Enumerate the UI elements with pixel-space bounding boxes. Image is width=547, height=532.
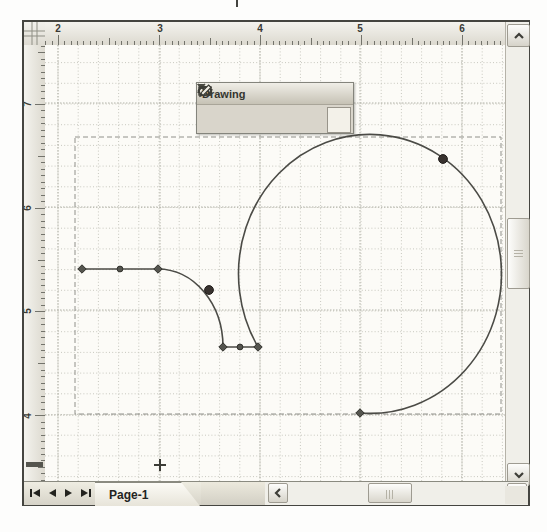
- rectangle-tool-button[interactable]: [199, 107, 224, 133]
- h-ruler-tick: [109, 38, 110, 45]
- arc-tool-button[interactable]: [276, 107, 301, 133]
- arc-control-point[interactable]: [439, 155, 448, 164]
- pencil-tool-button[interactable]: [327, 107, 352, 133]
- thumb-grip-icon: [514, 250, 523, 258]
- ruler-corner-cross-icon: [24, 22, 45, 45]
- h-ruler-tick: [58, 35, 59, 45]
- bottom-bar: Page-1: [24, 481, 528, 505]
- v-ruler-tick: [38, 467, 45, 468]
- v-ruler-tick: [38, 363, 45, 364]
- v-ruler-tick: [35, 415, 45, 416]
- v-ruler-label: 7: [24, 101, 33, 107]
- previous-page-icon: [47, 488, 57, 498]
- v-ruler-label: 6: [24, 205, 33, 211]
- drawing-canvas[interactable]: Drawing: [45, 45, 505, 481]
- vertical-scrollbar[interactable]: [505, 22, 529, 486]
- pencil-icon: [197, 83, 213, 99]
- vertex-handle[interactable]: [254, 343, 262, 351]
- selection-bounding-box: [75, 137, 501, 414]
- v-ruler-tick: [35, 104, 45, 105]
- drawing-toolbar-titlebar[interactable]: Drawing: [197, 83, 353, 105]
- vertex-handle[interactable]: [154, 265, 162, 273]
- horizontal-scrollbar-thumb[interactable]: [368, 483, 412, 503]
- crosshair-cursor: [154, 459, 166, 471]
- v-ruler-label: 4: [24, 413, 33, 419]
- h-ruler-label: 2: [55, 23, 61, 34]
- segment-midpoint-handle[interactable]: [117, 266, 123, 272]
- horizontal-ruler: 23456: [45, 22, 505, 46]
- next-page-button[interactable]: [61, 484, 77, 502]
- v-ruler-tick: [35, 208, 45, 209]
- screenshot-root: 23456 7654 Drawing: [0, 0, 547, 532]
- freeform-tool-button[interactable]: [301, 107, 326, 133]
- toolbar-menu-button[interactable]: [319, 86, 334, 101]
- v-ruler-tick: [38, 260, 45, 261]
- vertical-scrollbar-thumb[interactable]: [507, 218, 530, 289]
- chevron-up-icon: [513, 32, 525, 40]
- v-ruler-tick: [38, 52, 45, 53]
- vertical-ruler: 7654: [24, 45, 46, 481]
- toolbar-close-button[interactable]: [336, 86, 351, 101]
- h-ruler-tick: [260, 35, 261, 45]
- toolbar-title: Drawing: [197, 88, 319, 100]
- v-ruler-label: 5: [24, 308, 33, 314]
- first-page-icon: [29, 488, 41, 498]
- scroll-left-button[interactable]: [268, 483, 288, 503]
- freeform-shape-path[interactable]: [82, 134, 502, 413]
- h-ruler-tick: [361, 35, 362, 45]
- segment-midpoint-handle[interactable]: [237, 344, 243, 350]
- vertex-handle[interactable]: [219, 343, 227, 351]
- h-ruler-label: 3: [157, 23, 163, 34]
- page-tab-label: Page-1: [95, 488, 148, 502]
- scrollbar-corner: [505, 486, 528, 504]
- chevron-left-icon: [274, 487, 282, 499]
- line-tool-button[interactable]: [250, 107, 275, 133]
- h-ruler-label: 5: [357, 23, 363, 34]
- cropped-ui-artifact: [236, 0, 238, 7]
- v-ruler-tick: [38, 156, 45, 157]
- h-ruler-label: 6: [459, 23, 465, 34]
- ruler-corner: [24, 22, 46, 46]
- horizontal-scrollbar[interactable]: [265, 482, 528, 505]
- drawing-toolbar-buttons: [197, 105, 353, 135]
- h-ruler-tick: [412, 38, 413, 45]
- vertex-handle[interactable]: [78, 265, 86, 273]
- ruler-cursor-position-mark: [26, 462, 43, 467]
- h-ruler-tick: [159, 35, 160, 45]
- scroll-up-button[interactable]: [507, 24, 530, 47]
- tab-strip: [201, 482, 266, 505]
- h-ruler-label: 4: [257, 23, 263, 34]
- first-page-button[interactable]: [27, 484, 43, 502]
- previous-page-button[interactable]: [44, 484, 60, 502]
- arc-control-point[interactable]: [205, 286, 214, 295]
- last-page-button[interactable]: [78, 484, 94, 502]
- drawing-window: 23456 7654 Drawing: [22, 20, 530, 506]
- h-ruler-tick: [462, 35, 463, 45]
- h-ruler-tick: [210, 38, 211, 45]
- v-ruler-tick: [35, 311, 45, 312]
- drawing-toolbar: Drawing: [196, 82, 354, 134]
- ellipse-tool-button[interactable]: [225, 107, 250, 133]
- chevron-down-icon: [513, 471, 525, 479]
- next-page-icon: [64, 488, 74, 498]
- page-tab-page-1[interactable]: Page-1: [95, 482, 201, 506]
- vertex-handle[interactable]: [356, 409, 364, 417]
- thumb-grip-icon: [386, 490, 394, 499]
- h-ruler-tick: [311, 38, 312, 45]
- last-page-icon: [80, 488, 92, 498]
